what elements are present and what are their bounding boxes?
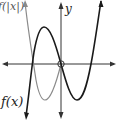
f-curve <box>26 1 101 116</box>
x-axis-left-arrow-icon <box>2 62 8 67</box>
f-curve-up-arrow-icon <box>99 0 104 7</box>
x-axis <box>2 62 116 67</box>
x-axis-right-arrow-icon <box>110 62 116 67</box>
function-graph: f(|x|) f(x) y <box>0 0 116 121</box>
f-abs-label: f(|x|) <box>0 0 24 13</box>
f-label: f(x) <box>1 94 23 109</box>
y-axis-down-arrow-icon <box>59 112 64 119</box>
y-axis-up-arrow-icon <box>59 2 64 9</box>
y-axis-label: y <box>65 2 72 16</box>
f-curve-down-arrow-icon <box>24 112 29 120</box>
